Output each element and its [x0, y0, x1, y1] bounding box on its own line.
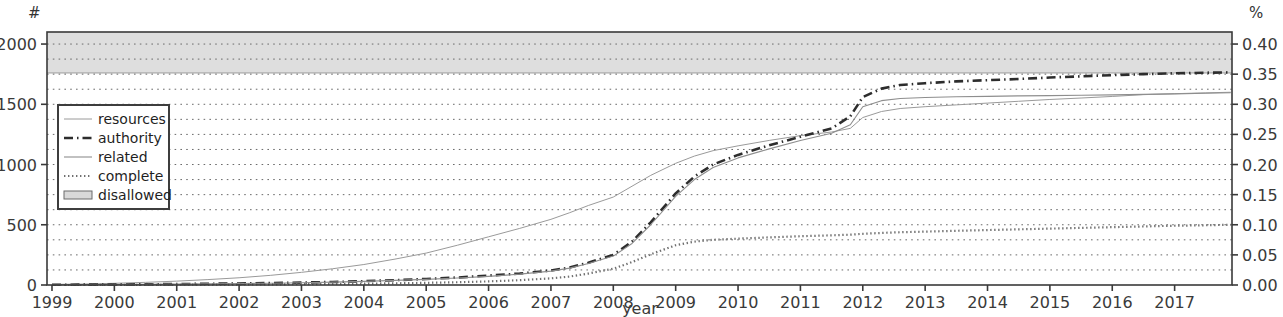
legend-item-resources[interactable]: resources: [63, 109, 164, 128]
legend-label-related: related: [98, 150, 148, 164]
legend-label-resources: resources: [98, 112, 166, 126]
legend-item-related[interactable]: related: [63, 147, 164, 166]
legend-swatch-complete-icon: [63, 169, 93, 183]
band-disallowed: [47, 32, 1232, 73]
legend-item-complete[interactable]: complete: [63, 166, 164, 185]
x-axis-title: year: [622, 299, 658, 317]
chart-figure: # % 05001000150020000.000.050.100.150.20…: [0, 0, 1283, 317]
legend-label-disallowed: disallowed: [98, 188, 172, 202]
legend-swatch-authority-icon: [63, 131, 93, 145]
legend-item-disallowed[interactable]: disallowed: [63, 185, 164, 204]
legend-label-complete: complete: [98, 169, 163, 183]
legend-swatch-resources-icon: [63, 112, 93, 126]
chart-legend: resourcesauthorityrelatedcompletedisallo…: [57, 104, 170, 210]
legend-swatch-related-icon: [63, 150, 93, 164]
legend-item-authority[interactable]: authority: [63, 128, 164, 147]
legend-swatch-disallowed-icon: [63, 188, 93, 202]
plot-canvas: [0, 0, 1283, 317]
legend-label-authority: authority: [98, 131, 162, 145]
